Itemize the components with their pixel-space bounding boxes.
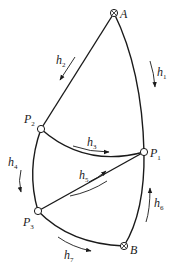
edge-label-h4: h4 xyxy=(8,155,18,171)
flow-arrow-h6 xyxy=(146,188,150,222)
flow-arrow-h4 xyxy=(20,170,22,192)
edge-label-h1: h1 xyxy=(157,65,167,81)
flow-arrow-h5 xyxy=(89,171,106,182)
node-P1 xyxy=(140,148,147,155)
node-label-P1: P1 xyxy=(149,146,161,162)
edges xyxy=(33,13,144,246)
flow-arrow-h1 xyxy=(150,61,155,87)
node-label-A: A xyxy=(119,7,128,21)
node-label-P3: P3 xyxy=(22,215,34,231)
edge-label-h3: h3 xyxy=(87,135,97,151)
node-label-B: B xyxy=(130,243,138,257)
pipe-network-diagram: A P1 P2 P3 B h1 h2 h3 h4 h5 h6 h7 xyxy=(0,0,170,267)
edge-label-h5: h5 xyxy=(79,168,89,184)
edge-label-h6: h6 xyxy=(154,196,164,212)
edge-label-h2: h2 xyxy=(56,53,66,69)
node-P2 xyxy=(37,125,44,132)
edge-h7 xyxy=(38,211,124,246)
node-B xyxy=(120,242,127,249)
edge-h4 xyxy=(33,129,41,211)
node-A xyxy=(110,9,117,16)
edge-h1 xyxy=(114,13,144,152)
edge-label-h7: h7 xyxy=(64,248,74,264)
node-P3 xyxy=(34,207,41,214)
flow-arrow-h7 xyxy=(58,237,91,251)
edge-h6 xyxy=(124,152,144,246)
edge-h2 xyxy=(41,13,114,129)
node-label-P2: P2 xyxy=(23,112,35,128)
